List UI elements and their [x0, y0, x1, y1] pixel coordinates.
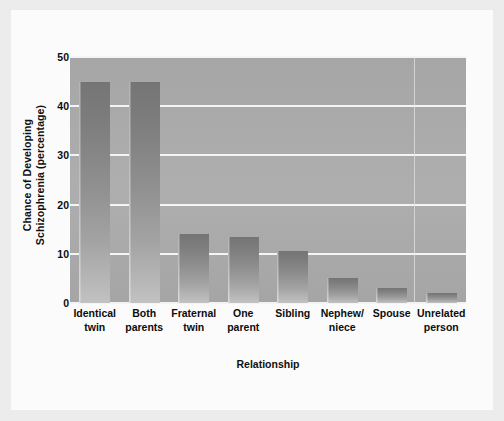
plot-area [70, 57, 466, 303]
bar [426, 293, 457, 303]
chart-figure: Chance of Developing Schizophrenia (perc… [11, 10, 493, 410]
y-tick-label-30: 30 [43, 149, 69, 161]
y-axis-tick-labels: 01020304050 [29, 10, 69, 410]
x-axis-tick-labels: Identical twinBoth parentsFraternal twin… [70, 307, 466, 347]
x-tick-label: Unrelated person [412, 307, 472, 334]
bar [277, 251, 308, 303]
bar [376, 288, 407, 303]
y-tick-label-10: 10 [43, 248, 69, 260]
y-tick-label-40: 40 [43, 100, 69, 112]
y-tick-label-20: 20 [43, 199, 69, 211]
bar-series [70, 57, 466, 303]
bar [129, 82, 160, 303]
bar [79, 82, 110, 303]
bar [178, 234, 209, 303]
x-axis-title: Relationship [70, 358, 466, 370]
y-tick-label-50: 50 [43, 51, 69, 63]
bar [327, 278, 358, 303]
bar [228, 237, 259, 303]
